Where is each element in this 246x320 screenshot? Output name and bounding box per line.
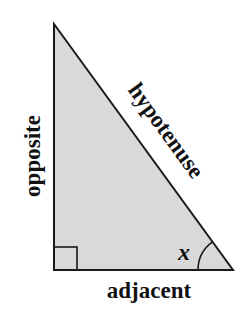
right-triangle bbox=[54, 24, 233, 270]
adjacent-label: adjacent bbox=[107, 278, 192, 303]
triangle-diagram: x opposite hypotenuse adjacent bbox=[0, 0, 246, 320]
opposite-label: opposite bbox=[20, 115, 45, 197]
angle-x-label: x bbox=[177, 239, 190, 265]
